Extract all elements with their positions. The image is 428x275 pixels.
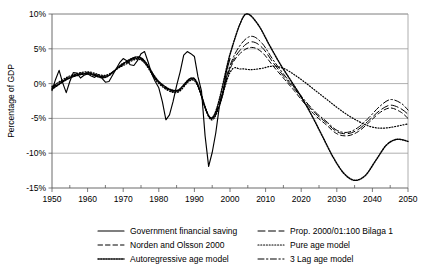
y-tick-label: -5% xyxy=(31,113,47,123)
y-tick-label: 0% xyxy=(34,79,47,89)
x-tick-label: 1990 xyxy=(185,194,204,204)
series-line-3 xyxy=(52,59,408,128)
x-tick-label: 1980 xyxy=(149,194,168,204)
series-line-2 xyxy=(52,47,408,135)
legend-label-5: 3 Lag age model xyxy=(290,254,353,264)
legend-label-0: Government financial saving xyxy=(130,226,238,236)
series-line-0 xyxy=(52,52,230,167)
x-tick-label: 2010 xyxy=(256,194,275,204)
x-tick-label: 2030 xyxy=(327,194,346,204)
x-tick-label: 1960 xyxy=(78,194,97,204)
y-tick-label: 5% xyxy=(34,44,47,54)
gdp-saving-line-chart: 10%5%0%-5%-10%-15%1950196019701980199020… xyxy=(0,0,428,275)
x-tick-label: 2040 xyxy=(363,194,382,204)
x-tick-label: 2020 xyxy=(292,194,311,204)
legend-label-2: Norden and Olsson 2000 xyxy=(130,240,225,250)
legend-label-4: Autoregressive age model xyxy=(130,254,229,264)
x-tick-label: 2000 xyxy=(221,194,240,204)
y-axis-title: Percentage of GDP xyxy=(6,64,16,138)
x-tick-label: 2050 xyxy=(399,194,418,204)
x-tick-label: 1950 xyxy=(43,194,62,204)
y-tick-label: 10% xyxy=(29,9,46,19)
y-tick-label: -15% xyxy=(26,183,46,193)
legend-label-3: Pure age model xyxy=(290,240,350,250)
legend-label-1: Prop. 2000/01:100 Bilaga 1 xyxy=(290,226,393,236)
series-line-4 xyxy=(52,14,408,180)
y-tick-label: -10% xyxy=(26,148,46,158)
x-tick-label: 1970 xyxy=(114,194,133,204)
chart-figure: 10%5%0%-5%-10%-15%1950196019701980199020… xyxy=(0,0,428,275)
